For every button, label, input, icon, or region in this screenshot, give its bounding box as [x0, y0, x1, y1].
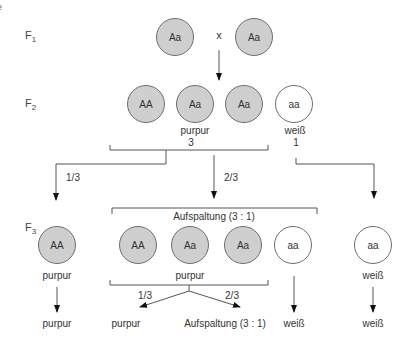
f2-offspring-circle: Aa — [176, 85, 214, 123]
sub-fraction-left: 1/3 — [138, 290, 152, 301]
f3-circle: Aa — [171, 226, 209, 264]
f2-purple-label: purpur — [181, 125, 210, 136]
f3-circle: aa — [354, 226, 392, 264]
f1-parent-circle: Aa — [235, 18, 273, 56]
f3-segregating-purple-label: purpur — [176, 270, 205, 281]
generation-label-f1: F1 — [25, 29, 36, 44]
f3-circle: AA — [119, 226, 157, 264]
connector-lines — [0, 0, 409, 346]
f2-purple-count: 3 — [188, 137, 194, 148]
fraction-mid: 2/3 — [224, 172, 238, 183]
f3-circle: aa — [274, 226, 312, 264]
f1-parent-circle: Aa — [156, 18, 194, 56]
f3-left-phenotype: purpur — [43, 270, 72, 281]
segregation-label: Aufspaltung (3 : 1) — [173, 211, 255, 222]
result-right: weiß — [362, 318, 383, 329]
f2-offspring-circle: AA — [127, 85, 165, 123]
arrow-f2-to-f3-right — [296, 158, 374, 198]
fraction-left: 1/3 — [66, 172, 80, 183]
f2-offspring-circle: aa — [275, 85, 313, 123]
sub-fraction-right: 2/3 — [225, 290, 239, 301]
generation-label-f3: F3 — [25, 221, 36, 236]
generation-label-f2: F2 — [25, 97, 36, 112]
result-left: purpur — [43, 318, 72, 329]
f3-circle: Aa — [224, 226, 262, 264]
f2-white-count: 1 — [293, 137, 299, 148]
result-white: weiß — [283, 318, 304, 329]
f2-white-label: weiß — [284, 125, 305, 136]
result-sub-left: purpur — [112, 318, 141, 329]
f3-circle: AA — [38, 226, 76, 264]
result-sub-right: Aufspaltung (3 : 1) — [184, 318, 266, 329]
cross-symbol: x — [216, 29, 222, 41]
f3-right-phenotype: weiß — [362, 270, 383, 281]
f2-offspring-circle: Aa — [225, 85, 263, 123]
